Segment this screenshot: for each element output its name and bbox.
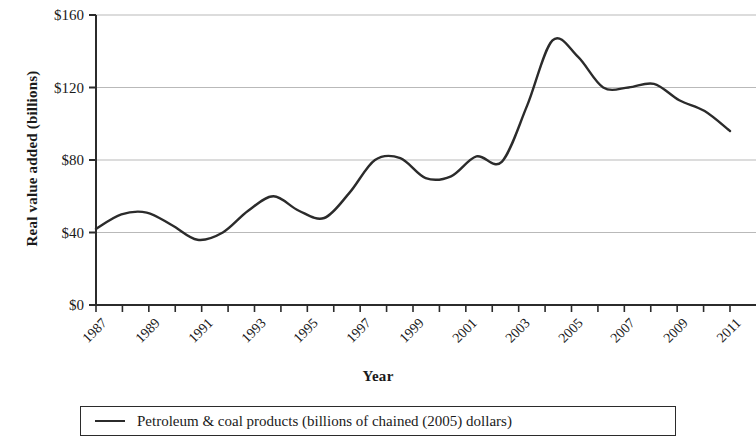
x-axis-tick-label: 2003 [489,316,533,360]
x-axis-tick-label: 1995 [277,316,321,360]
x-axis-tick-label: 2009 [647,316,691,360]
chart-container: Real value added (billions) $0$40$80$120… [0,0,756,443]
x-axis-tick-label: 1991 [172,316,216,360]
x-axis-tick-label: 1987 [66,316,110,360]
x-axis-tick-label: 2001 [436,316,480,360]
x-axis-tick-label: 2011 [700,316,744,360]
x-axis-title: Year [0,368,756,385]
legend-line-swatch [95,420,125,422]
x-axis-tick-label: 1989 [119,316,163,360]
x-axis-tick-label: 1997 [330,316,374,360]
legend-label: Petroleum & coal products (billions of c… [137,413,512,430]
x-axis-tick-label: 1999 [383,316,427,360]
x-axis-tick-label: 2007 [594,316,638,360]
x-axis-tick-label: 1993 [225,316,269,360]
x-axis-tick-label: 2005 [542,316,586,360]
legend: Petroleum & coal products (billions of c… [80,406,676,436]
